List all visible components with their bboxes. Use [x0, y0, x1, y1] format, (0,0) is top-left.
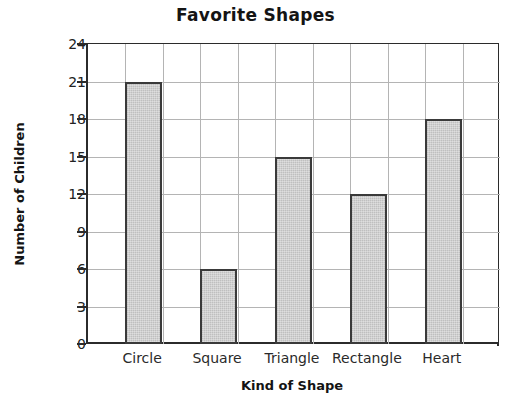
x-axis-tick-label: Heart — [389, 350, 494, 366]
y-axis-ticks: 03691215182124 — [38, 44, 86, 346]
y-axis-tick-mark — [77, 343, 86, 345]
bar-rectangle — [350, 194, 387, 344]
gridline-vertical — [163, 44, 164, 344]
y-axis-tick-mark — [77, 156, 86, 158]
y-axis-title-container: Number of Children — [6, 44, 32, 344]
gridline-vertical — [313, 44, 314, 344]
chart-title: Favorite Shapes — [0, 5, 511, 25]
gridline-vertical — [238, 44, 239, 344]
y-axis-tick-mark — [77, 268, 86, 270]
bar-circle — [125, 82, 162, 344]
y-axis-tick-mark — [77, 43, 86, 45]
gridline-vertical — [388, 44, 389, 344]
y-axis-tick-mark — [77, 81, 86, 83]
bar-chart: Favorite Shapes Number of Children 03691… — [0, 0, 511, 405]
y-axis-tick-mark — [77, 306, 86, 308]
y-axis-tick-mark — [77, 193, 86, 195]
bar-square — [200, 269, 237, 344]
y-axis-tick-mark — [77, 118, 86, 120]
gridline-vertical — [463, 44, 464, 344]
x-axis-title: Kind of Shape — [86, 378, 498, 393]
y-axis-tick-mark — [77, 231, 86, 233]
bar-triangle — [275, 157, 312, 344]
y-axis-title: Number of Children — [12, 122, 27, 265]
plot-area — [86, 44, 498, 344]
bar-heart — [425, 119, 462, 344]
